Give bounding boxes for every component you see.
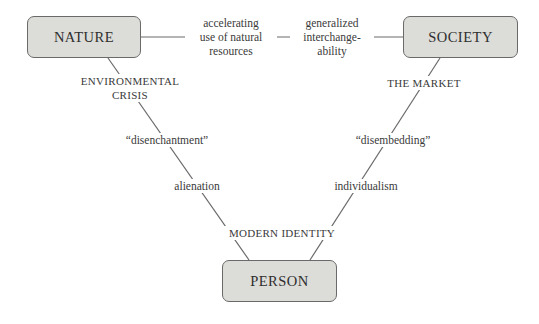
society-node-label: SOCIETY <box>428 29 493 46</box>
person-node: PERSON <box>222 260 337 302</box>
society-node: SOCIETY <box>403 16 518 58</box>
environmental-crisis-label: ENVIRONMENTAL CRISIS <box>76 74 184 102</box>
disenchantment-label: “disenchantment” <box>118 133 216 147</box>
disembedding-label: “disembedding” <box>351 133 435 147</box>
person-node-label: PERSON <box>250 273 309 290</box>
modern-identity-label: MODERN IDENTITY <box>219 226 345 240</box>
label-line: interchange- <box>292 30 372 44</box>
label-line: use of natural <box>187 30 275 44</box>
individualism-label: individualism <box>330 179 402 193</box>
label-line: resources <box>187 44 275 58</box>
label-line: accelerating <box>187 16 275 30</box>
label-line: CRISIS <box>78 88 182 102</box>
label-line: generalized <box>292 16 372 30</box>
resource-use-label: accelerating use of natural resources <box>185 16 277 58</box>
alienation-label: alienation <box>168 179 226 193</box>
the-market-label: THE MARKET <box>382 76 466 90</box>
label-line: ENVIRONMENTAL <box>78 74 182 88</box>
interchangeability-label: generalized interchange- ability <box>290 16 374 58</box>
nature-node-label: NATURE <box>54 29 114 46</box>
label-line: ability <box>292 44 372 58</box>
nature-node: NATURE <box>27 16 141 58</box>
